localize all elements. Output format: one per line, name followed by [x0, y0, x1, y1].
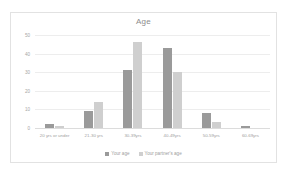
- y-axis-labels: 01020304050: [11, 35, 33, 128]
- x-axis-labels: 20 yrs or under21-30 yrs30-39yrs40-49yrs…: [35, 130, 270, 142]
- bar: [163, 48, 172, 128]
- legend-item[interactable]: Your age: [105, 151, 129, 156]
- bar-group: [74, 35, 113, 128]
- legend-item[interactable]: Your partner's age: [139, 151, 182, 156]
- bar: [55, 126, 64, 128]
- bar-group: [231, 35, 270, 128]
- y-axis-tick-label: 0: [27, 126, 30, 131]
- bar: [212, 122, 221, 128]
- bar-group: [35, 35, 74, 128]
- bar: [133, 42, 142, 128]
- bar-group: [153, 35, 192, 128]
- bar-group: [192, 35, 231, 128]
- bar: [173, 72, 182, 128]
- x-axis-tick-label: 40-49yrs: [153, 130, 192, 142]
- y-axis-tick-label: 10: [25, 107, 30, 112]
- gridline: [35, 128, 270, 129]
- y-axis-tick-label: 40: [25, 51, 30, 56]
- y-axis-tick-label: 20: [25, 88, 30, 93]
- bar: [202, 113, 211, 128]
- bar: [45, 124, 54, 128]
- bar-groups: [35, 35, 270, 128]
- x-axis-tick-label: 21-30 yrs: [74, 130, 113, 142]
- legend-label: Your partner's age: [145, 151, 182, 156]
- bar: [94, 102, 103, 128]
- chart-title: Age: [11, 17, 276, 26]
- legend-swatch-icon: [139, 152, 143, 156]
- bar: [123, 70, 132, 128]
- legend-swatch-icon: [105, 152, 109, 156]
- x-axis-tick-label: 20 yrs or under: [35, 130, 74, 142]
- bar: [241, 126, 250, 128]
- chart-container: Age 01020304050 20 yrs or under21-30 yrs…: [10, 12, 277, 163]
- legend-label: Your age: [111, 151, 129, 156]
- y-axis-tick-label: 30: [25, 70, 30, 75]
- x-axis-tick-label: 60-69yrs: [231, 130, 270, 142]
- x-axis-tick-label: 50-59yrs: [192, 130, 231, 142]
- bar-group: [113, 35, 152, 128]
- x-axis-tick-label: 30-39yrs: [113, 130, 152, 142]
- chart-legend: Your ageYour partner's age: [11, 151, 276, 156]
- y-axis-tick-label: 50: [25, 33, 30, 38]
- bar: [84, 111, 93, 128]
- plot-area: [35, 35, 270, 128]
